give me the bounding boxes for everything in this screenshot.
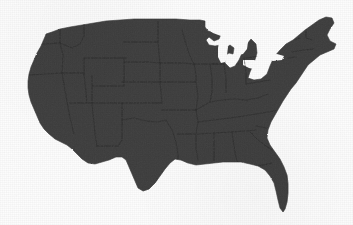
us-map-figure: Contiguous United States Silhouette map …	[0, 0, 353, 225]
us-map-svg: Contiguous United States Silhouette map …	[0, 0, 353, 225]
scan-noise-layer	[0, 0, 353, 225]
